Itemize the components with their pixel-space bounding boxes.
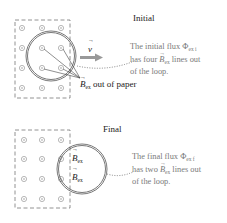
velocity-arrow <box>80 54 103 62</box>
field-region-initial <box>15 20 70 98</box>
note-final: The final flux Φex f has two Bex lines o… <box>132 152 201 188</box>
field-label-initial: Bex out of paper <box>80 79 136 93</box>
title-final: Final <box>103 124 122 135</box>
leader-initial <box>77 62 132 68</box>
diagram-canvas <box>0 0 227 223</box>
leader-final <box>107 172 133 176</box>
conducting-loop-initial <box>26 31 76 81</box>
field-label-final-2: Bex <box>72 172 83 183</box>
title-initial: Initial <box>133 13 155 24</box>
note-initial: The initial flux Φex i has four Bex line… <box>130 42 200 78</box>
conducting-loop-final <box>57 144 107 194</box>
velocity-label: v <box>88 44 92 54</box>
field-label-final-1: Bex <box>72 153 83 164</box>
